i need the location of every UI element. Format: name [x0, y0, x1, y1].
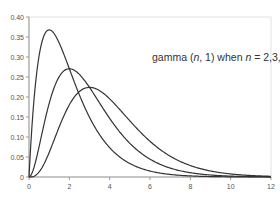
x-tick-label: 2 [67, 183, 71, 190]
y-tick-label: 0.35 [10, 34, 24, 41]
chart-annotation: gamma (n, 1) when n = 2,3,4 [152, 51, 280, 63]
x-axis-ticks: 024681012 [27, 177, 275, 190]
x-tick-label: 0 [27, 183, 31, 190]
y-tick-label: 0.30 [10, 54, 24, 61]
x-tick-label: 4 [108, 183, 112, 190]
y-tick-label: 0.20 [10, 94, 24, 101]
x-tick-label: 6 [148, 183, 152, 190]
y-tick-label: 0 [20, 174, 24, 181]
y-tick-label: 0.40 [10, 14, 24, 21]
curve-n-3 [29, 69, 271, 177]
y-tick-label: 0.15 [10, 114, 24, 121]
y-tick-label: 0.10 [10, 134, 24, 141]
y-axis-ticks: 00.050.100.150.200.250.300.350.40 [10, 14, 29, 181]
y-tick-label: 0.25 [10, 74, 24, 81]
x-tick-label: 12 [267, 183, 275, 190]
y-tick-label: 0.05 [10, 154, 24, 161]
gamma-density-chart: 00.050.100.150.200.250.300.350.40 024681… [0, 0, 280, 197]
x-tick-label: 10 [227, 183, 235, 190]
curve-n-4 [29, 87, 271, 177]
x-tick-label: 8 [188, 183, 192, 190]
plot-frame [29, 17, 271, 177]
